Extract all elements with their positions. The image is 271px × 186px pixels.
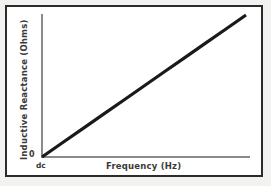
- figure-border-frame: [5, 5, 263, 177]
- figure-root: Inductive Reactance (Ohms) Frequency (Hz…: [0, 0, 271, 186]
